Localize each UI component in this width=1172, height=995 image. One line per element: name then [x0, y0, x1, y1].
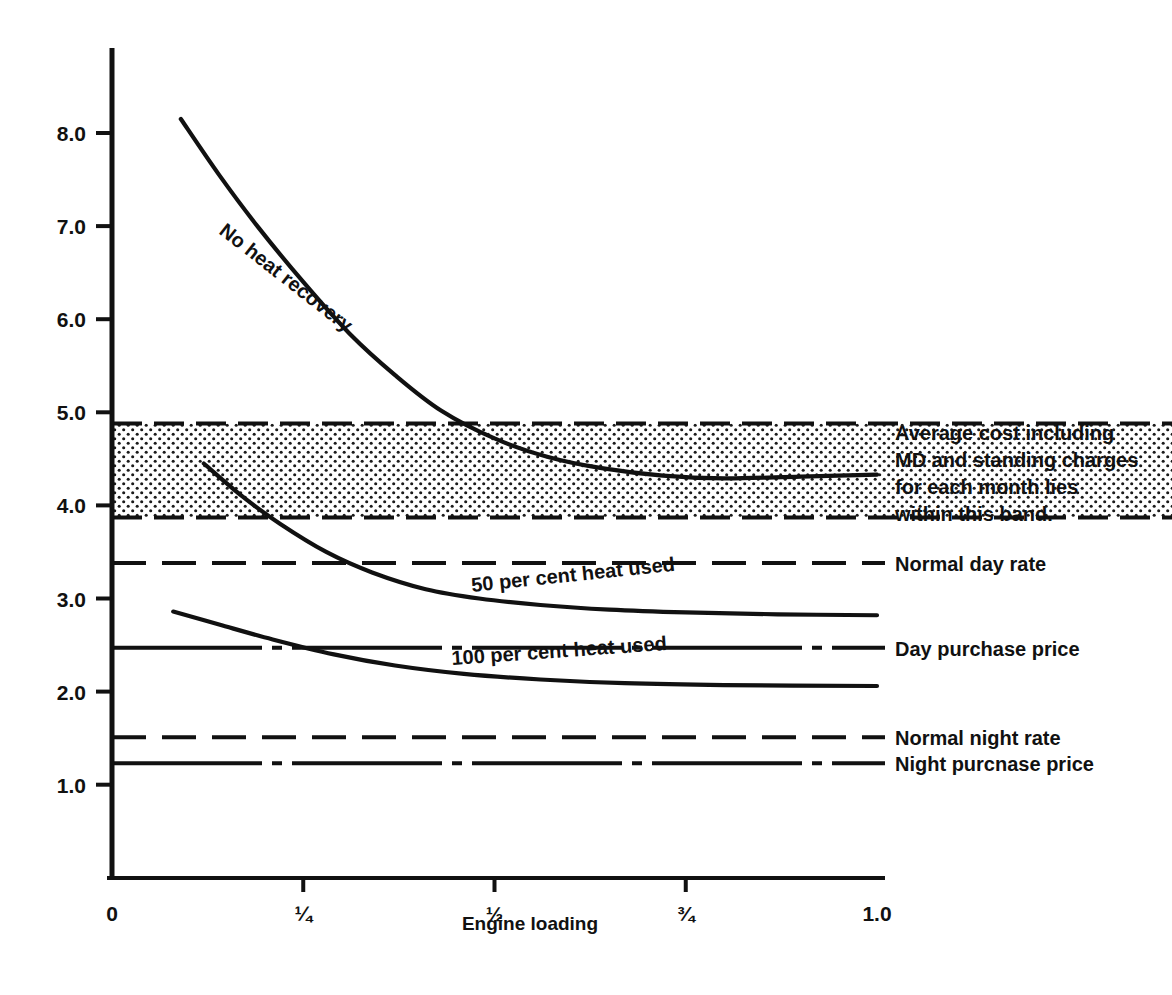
x-axis-title: Engine loading: [462, 913, 598, 934]
curve-label-no-heat-recovery: No heat recovery: [216, 219, 358, 337]
y-tick-label: 1.0: [57, 774, 86, 797]
chart-canvas: 1.02.03.04.05.06.07.08.0 0¼½¾1.0 Engine …: [0, 0, 1172, 995]
y-tick-label: 8.0: [57, 122, 86, 145]
band-note-line-1: Average cost including: [895, 422, 1114, 444]
reference-line-label: Night purcnase price: [895, 753, 1094, 775]
y-tick-label: 2.0: [57, 681, 86, 704]
reference-line-label: Normal night rate: [895, 727, 1061, 749]
curve-label-50-per-cent-heat-used: 50 per cent heat used: [470, 553, 676, 596]
x-tick-label: ¼: [294, 902, 313, 925]
x-tick-label: 1.0: [862, 902, 891, 925]
y-tick-label: 7.0: [57, 215, 86, 238]
x-axis-ticks: [303, 878, 686, 892]
curve-label-100-per-cent-heat-used: 100 per cent heat used: [451, 632, 668, 669]
data-curves: [173, 119, 877, 686]
y-tick-label: 6.0: [57, 308, 86, 331]
reference-line-label: Day purchase price: [895, 638, 1080, 660]
x-tick-label: ¾: [677, 902, 696, 925]
y-tick-label: 5.0: [57, 401, 86, 424]
reference-line-label: Normal day rate: [895, 553, 1046, 575]
reference-line-labels: Normal day rateDay purchase priceNormal …: [895, 553, 1094, 775]
band-note-line-4: within this band.: [894, 503, 1053, 525]
y-tick-label: 4.0: [57, 494, 86, 517]
band-note-line-2: MD and standing charges: [895, 449, 1138, 471]
band-note-line-3: for each month lies: [895, 476, 1078, 498]
scan-edge-artifact: [150, 0, 156, 10]
chart-figure: 1.02.03.04.05.06.07.08.0 0¼½¾1.0 Engine …: [0, 0, 1172, 995]
y-tick-label: 3.0: [57, 588, 86, 611]
y-axis-tick-labels: 1.02.03.04.05.06.07.08.0: [57, 122, 86, 797]
x-tick-label: 0: [106, 902, 118, 925]
